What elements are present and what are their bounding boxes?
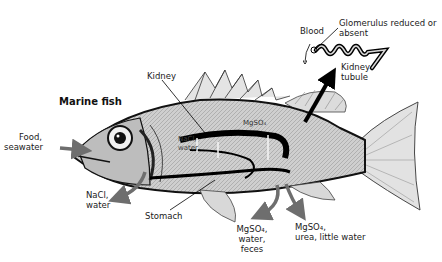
marine-fish-osmoregulation-diagram: Marine fish Kidney MgSO₄ NaCl,water Food… <box>0 0 442 262</box>
urine-label: MgSO₄,urea, little water <box>295 222 365 242</box>
stomach-label: Stomach <box>145 211 182 221</box>
food-arrow <box>60 148 82 150</box>
pelvic-fin <box>200 190 236 222</box>
dorsal-fin <box>185 70 290 100</box>
mgso4-inside-label: MgSO₄ <box>243 118 266 128</box>
glomerulus-label: Glomerulus reduced orabsent <box>339 18 436 38</box>
feces-label: MgSO₄,water,feces <box>232 224 272 254</box>
fish-illustration <box>0 0 442 262</box>
kidney-label: Kidney <box>147 71 176 81</box>
kidney-tubule-label: Kidneytubule <box>341 62 370 82</box>
blood-arrow <box>305 44 310 62</box>
nacl-water-out-label: NaCl,water <box>86 190 110 210</box>
food-seawater-label: Food,seawater <box>4 132 42 152</box>
anal-fin <box>290 182 335 200</box>
nacl-water-inside-label: NaCl,water <box>178 135 198 153</box>
diagram-title: Marine fish <box>59 96 122 107</box>
blood-label: Blood <box>300 26 324 36</box>
tail-fin <box>360 102 420 210</box>
